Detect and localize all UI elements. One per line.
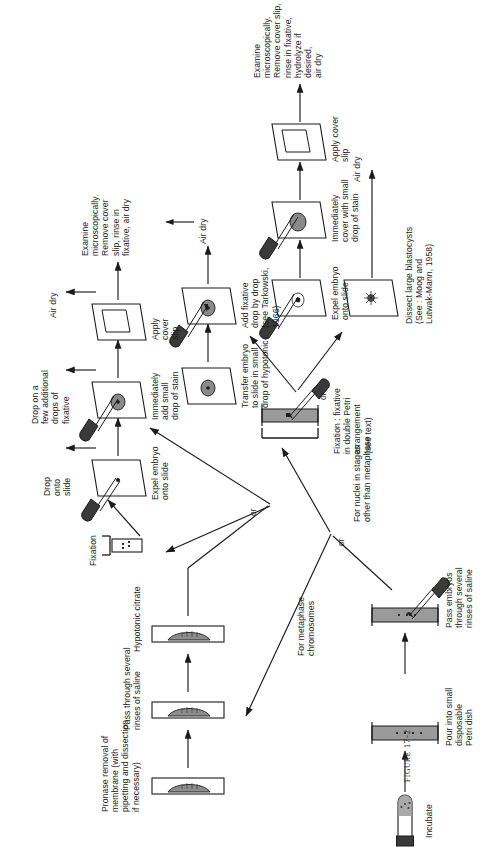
figure-caption-number: 17-2 [402,729,412,748]
rotated-diagram-container: Incubate Pour into small disposable Petr… [0,0,480,852]
label-apply-cover-slip-a: Apply cover slip [150,318,181,340]
slide-transfer-icon [182,368,236,404]
figure-caption-label: FIGURE [403,751,412,782]
slide-coverslip-a-icon [92,304,146,340]
label-transfer-hypotonic: Transfer embryo to slide in small drop o… [240,340,271,408]
label-pour-petri: Pour into small disposable Petri dish [444,688,475,746]
fixation-vial-icon [102,536,142,555]
label-add-fixative-dropwise: Add fixative drop by drop (see Tarkowski… [240,267,281,328]
watch-glass-icon-1 [152,778,224,794]
label-examine-a: Examine microscopically. Remove cover sl… [80,194,131,256]
branch-or-label-3: or [318,393,328,400]
slide-stain-a-icon [80,382,146,441]
slide-coverslip-b-icon [272,124,326,160]
label-air-dry-top: Air dry [48,292,58,318]
label-air-dry-bottom: Air dry [352,156,362,182]
label-hypotonic-citrate: Hypotonic citrate [132,586,142,652]
label-drop-onto-slide: Drop onto slide [42,477,73,496]
slide-expel-a-icon [82,460,146,521]
label-apply-cover-slip-b: Apply cover slip [330,116,350,162]
label-incubate: Incubate [424,804,434,838]
label-add-stain-b: Immediately cover with small drop of sta… [330,179,361,242]
figure-caption: FIGURE 17-2 [402,729,412,782]
label-pronase: Pronase removal of membrane (with pipett… [100,720,141,812]
label-dissect-blastocysts: Dissect large blastocysts (See : Moog an… [404,227,435,324]
slide-stain-b-icon [260,202,326,259]
test-tube-icon [397,795,414,846]
label-expel-embryo-a: Expel embryo onto slide [150,446,170,500]
label-branch-metaphase: For metaphase chromosomes [296,597,316,656]
label-drop-extra-fixative: Drop on a few additional drops of fixati… [30,370,71,424]
branch-or-label-2: or [248,509,258,516]
label-pass-saline: Pass through several rinses of saline [122,647,142,730]
watch-glass-icon-3 [152,626,224,642]
flowchart-canvas: Incubate Pour into small disposable Petr… [0,0,480,852]
label-air-dry-mid: Air dry [198,218,208,244]
label-examine-b: Examine microscopically. Remove cover sl… [252,0,323,78]
branch-or-label-1: or [336,539,346,546]
petri-dish-with-pipette-icon [372,578,449,626]
flowchart-vector-layer [0,0,480,852]
watch-glass-icon-2 [152,702,224,718]
slide-dissect-icon [344,280,398,316]
label-fixation: Fixation [88,535,98,566]
figure-page: Incubate Pour into small disposable Petr… [0,0,480,852]
label-pass-embryos: Pass embryos through several rinses of s… [444,567,475,628]
label-fixation-double-petri: Fixation : fixative in double Petri arra… [332,388,373,454]
label-add-stain-a: Immediately add small drop of stain [150,371,181,420]
label-expel-embryo-b: Expel embryo onto slide [330,266,350,320]
double-petri-icon [262,379,329,438]
